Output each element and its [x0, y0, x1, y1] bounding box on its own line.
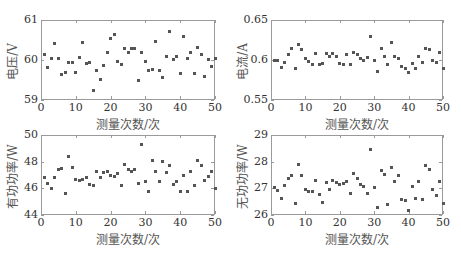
- x-tick-mark: [215, 96, 216, 99]
- data-point: [369, 35, 372, 38]
- data-point: [207, 175, 210, 178]
- x-tick-label: 50: [433, 102, 453, 113]
- data-point: [158, 180, 161, 183]
- data-point: [147, 190, 150, 193]
- x-tick-mark-top: [111, 20, 112, 23]
- data-point: [276, 59, 279, 62]
- x-tick-mark-top: [443, 135, 444, 138]
- data-point: [200, 53, 203, 56]
- x-tick-mark: [76, 211, 77, 214]
- data-point: [85, 176, 88, 179]
- x-tick-label: 20: [101, 102, 121, 113]
- data-point: [376, 70, 379, 73]
- data-point: [203, 75, 206, 78]
- data-point: [297, 163, 300, 166]
- data-point: [294, 202, 297, 205]
- data-point: [435, 194, 438, 197]
- x-tick-mark: [41, 96, 42, 99]
- data-point: [179, 190, 182, 193]
- data-point: [123, 47, 126, 50]
- data-point: [390, 41, 393, 44]
- x-axis-label: 测量次数/次: [271, 115, 443, 132]
- y-tick-mark-right: [211, 162, 214, 163]
- plot-frame: [41, 135, 215, 215]
- x-tick-label: 50: [205, 102, 225, 113]
- y-tick-mark: [41, 188, 44, 189]
- data-point: [50, 187, 53, 190]
- x-tick-label: 30: [135, 217, 155, 228]
- plot-frame: [271, 135, 443, 215]
- data-point: [428, 168, 431, 171]
- plot-frame: [271, 20, 443, 100]
- x-tick-mark: [374, 96, 375, 99]
- x-tick-mark-top: [305, 135, 306, 138]
- data-point: [116, 172, 119, 175]
- data-point: [50, 57, 53, 60]
- x-tick-mark-top: [374, 135, 375, 138]
- x-tick-label: 30: [364, 217, 384, 228]
- data-point: [133, 168, 136, 171]
- data-point: [172, 58, 175, 61]
- data-point: [287, 53, 290, 56]
- data-point: [283, 184, 286, 187]
- x-tick-label: 40: [170, 102, 190, 113]
- data-point: [373, 186, 376, 189]
- data-point: [300, 174, 303, 177]
- data-point: [151, 68, 154, 71]
- data-point: [88, 61, 91, 64]
- data-point: [137, 182, 140, 185]
- data-point: [290, 174, 293, 177]
- data-point: [144, 180, 147, 183]
- x-tick-mark: [305, 96, 306, 99]
- data-point: [356, 177, 359, 180]
- x-tick-mark-top: [180, 20, 181, 23]
- x-tick-mark: [111, 211, 112, 214]
- data-point: [120, 184, 123, 187]
- data-point: [210, 170, 213, 173]
- data-point: [81, 41, 84, 44]
- x-tick-mark-top: [409, 135, 410, 138]
- data-point: [64, 71, 67, 74]
- x-tick-label: 0: [31, 217, 51, 228]
- data-point: [376, 206, 379, 209]
- data-point: [411, 62, 414, 65]
- data-point: [311, 190, 314, 193]
- x-tick-label: 0: [261, 217, 281, 228]
- data-point: [200, 164, 203, 167]
- data-point: [196, 159, 199, 162]
- x-tick-mark: [340, 211, 341, 214]
- data-point: [95, 170, 98, 173]
- data-point: [189, 51, 192, 54]
- y-tick-mark-right: [211, 60, 214, 61]
- data-point: [438, 180, 441, 183]
- data-point: [113, 33, 116, 36]
- x-axis-label: 测量次数/次: [271, 230, 443, 247]
- x-tick-mark: [180, 211, 181, 214]
- data-point: [383, 173, 386, 176]
- data-point: [349, 63, 352, 66]
- data-point: [133, 47, 136, 50]
- data-point: [168, 30, 171, 33]
- data-point: [386, 203, 389, 206]
- y-tick-mark-right: [439, 135, 442, 136]
- data-point: [414, 197, 417, 200]
- data-point: [417, 180, 420, 183]
- x-tick-mark: [271, 211, 272, 214]
- x-tick-mark: [443, 211, 444, 214]
- data-point: [154, 40, 157, 43]
- data-point: [417, 55, 420, 58]
- plot-frame: [41, 20, 215, 100]
- data-point: [127, 51, 130, 54]
- data-point: [196, 46, 199, 49]
- x-tick-label: 50: [433, 217, 453, 228]
- data-point: [356, 53, 359, 56]
- y-axis-label: 电流/A: [233, 12, 250, 112]
- data-point: [435, 61, 438, 64]
- data-point: [67, 155, 70, 158]
- data-point: [352, 172, 355, 175]
- data-point: [46, 66, 49, 69]
- x-tick-label: 10: [66, 102, 86, 113]
- x-tick-label: 20: [330, 102, 350, 113]
- data-point: [64, 192, 67, 195]
- data-point: [438, 51, 441, 54]
